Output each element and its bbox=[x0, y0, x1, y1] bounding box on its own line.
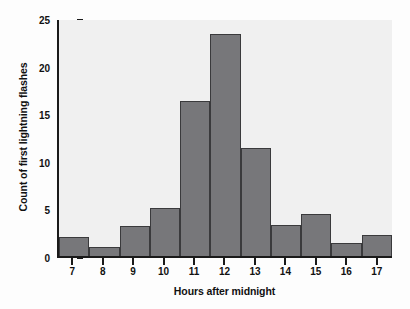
x-tick-label: 12 bbox=[209, 266, 239, 277]
x-tick-mark bbox=[240, 258, 270, 265]
x-tick-label: 10 bbox=[148, 266, 178, 277]
x-tick-mark bbox=[118, 258, 148, 265]
x-tick-label: 14 bbox=[270, 266, 300, 277]
x-tick-mark bbox=[209, 258, 239, 265]
x-tick-label: 9 bbox=[118, 266, 148, 277]
x-tick-mark bbox=[87, 258, 117, 265]
x-tick-mark bbox=[179, 258, 209, 265]
y-tick-label: 5 bbox=[44, 205, 50, 216]
bar bbox=[271, 225, 301, 256]
bar bbox=[89, 247, 119, 256]
x-axis-title: Hours after midnight bbox=[57, 285, 392, 297]
x-tick-label: 16 bbox=[331, 266, 361, 277]
y-tick-label: 20 bbox=[39, 62, 50, 73]
x-tick-mark bbox=[148, 258, 178, 265]
bar bbox=[210, 34, 240, 256]
x-tick-label: 8 bbox=[87, 266, 117, 277]
x-tick-label: 7 bbox=[57, 266, 87, 277]
x-axis-tick-marks bbox=[57, 258, 392, 265]
x-tick-mark bbox=[57, 258, 87, 265]
plot-area bbox=[57, 20, 392, 258]
x-tick-mark bbox=[301, 258, 331, 265]
chart-figure: Count of first lightning flashes 0510152… bbox=[0, 0, 410, 309]
bar bbox=[150, 208, 180, 256]
bar bbox=[331, 243, 361, 256]
x-tick-label: 17 bbox=[362, 266, 392, 277]
y-tick-label: 25 bbox=[39, 15, 50, 26]
bar bbox=[120, 226, 150, 256]
y-tick-label: 10 bbox=[39, 157, 50, 168]
y-axis-tick-labels: 0510152025 bbox=[26, 14, 50, 261]
y-tick-label: 0 bbox=[44, 253, 50, 264]
bar bbox=[362, 235, 392, 256]
x-tick-label: 13 bbox=[240, 266, 270, 277]
x-tick-mark bbox=[331, 258, 361, 265]
x-axis: 7891011121314151617 bbox=[57, 258, 392, 284]
y-tick-label: 15 bbox=[39, 110, 50, 121]
x-tick-label: 11 bbox=[179, 266, 209, 277]
x-tick-mark bbox=[362, 258, 392, 265]
bar-series bbox=[59, 20, 392, 256]
bar bbox=[180, 101, 210, 256]
x-axis-tick-labels: 7891011121314151617 bbox=[57, 266, 392, 277]
x-tick-mark bbox=[270, 258, 300, 265]
bar bbox=[59, 237, 89, 256]
x-tick-label: 15 bbox=[301, 266, 331, 277]
bar bbox=[241, 148, 271, 256]
bar bbox=[301, 214, 331, 256]
